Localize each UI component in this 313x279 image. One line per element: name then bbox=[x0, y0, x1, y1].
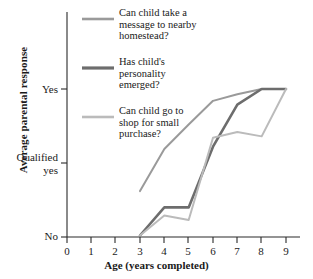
x-axis-title: Age (years completed) bbox=[0, 259, 313, 271]
legend-swatch-shop-line bbox=[82, 114, 114, 120]
chart-container: Average parental response Age (years com… bbox=[0, 0, 313, 279]
x-tick-label-7: 7 bbox=[230, 245, 244, 257]
legend-label-personality: Has child's personality emerged? bbox=[119, 56, 237, 91]
x-tick-label-1: 1 bbox=[84, 245, 98, 257]
y-tick-label-no: No bbox=[16, 231, 58, 242]
x-tick-label-2: 2 bbox=[108, 245, 122, 257]
x-axis-ticks bbox=[67, 237, 286, 243]
x-tick-label-0: 0 bbox=[60, 245, 74, 257]
y-axis-ticks bbox=[61, 89, 67, 237]
x-tick-label-3: 3 bbox=[133, 245, 147, 257]
y-tick-label-qualified-yes: yes bbox=[2, 165, 58, 176]
legend-swatch-message-line bbox=[82, 16, 114, 22]
y-tick-label-qualified: Qualified bbox=[2, 152, 58, 163]
x-tick-label-8: 8 bbox=[254, 245, 268, 257]
x-tick-label-9: 9 bbox=[279, 245, 293, 257]
x-tick-label-4: 4 bbox=[157, 245, 171, 257]
x-tick-label-5: 5 bbox=[181, 245, 195, 257]
legend-label-message: Can child take a message to nearby homes… bbox=[119, 7, 237, 42]
x-tick-label-6: 6 bbox=[206, 245, 220, 257]
y-tick-label-yes: Yes bbox=[16, 84, 58, 95]
legend-label-shop: Can child go to shop for small purchase? bbox=[119, 105, 237, 140]
legend-swatch-personality-line bbox=[82, 65, 114, 71]
